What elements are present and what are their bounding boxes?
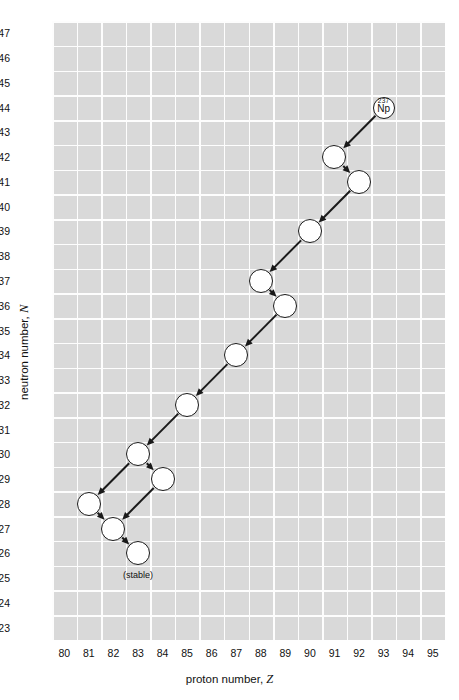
nuclide-node — [273, 294, 297, 318]
x-axis-title-symbol: Z — [266, 672, 273, 686]
nuclide-node — [77, 492, 101, 516]
y-tick-label: 129 — [0, 474, 10, 485]
y-tick-label: 131 — [0, 425, 10, 436]
plot-area: 237Np(stable) — [52, 21, 445, 640]
y-tick-label: 125 — [0, 573, 10, 584]
decay-arrow-line-alpha — [151, 414, 178, 442]
nuclide-label: 237Np — [373, 98, 395, 115]
y-tick-label: 127 — [0, 524, 10, 535]
decay-arrow-line-alpha — [126, 488, 153, 516]
element-symbol: Np — [373, 104, 395, 114]
y-tick-label: 139 — [0, 226, 10, 237]
y-tick-label: 146 — [0, 53, 10, 64]
decay-chain-chart: 237Np(stable) 14714614514414314214114013… — [0, 0, 459, 700]
y-tick-label: 135 — [0, 326, 10, 337]
y-tick-label: 142 — [0, 152, 10, 163]
decay-arrow-line-alpha — [323, 191, 350, 219]
nuclide-node — [347, 170, 371, 194]
y-tick-label: 144 — [0, 103, 10, 114]
nuclide-node — [151, 467, 175, 491]
y-tick-label: 134 — [0, 350, 10, 361]
y-tick-label: 143 — [0, 127, 10, 138]
y-tick-label: 132 — [0, 400, 10, 411]
stable-annotation: (stable) — [108, 570, 168, 580]
y-axis-title: neutron number, N — [17, 305, 32, 400]
y-tick-label: 128 — [0, 499, 10, 510]
y-tick-label: 145 — [0, 78, 10, 89]
y-tick-label: 138 — [0, 251, 10, 262]
x-axis-title-text: proton number, — [186, 673, 267, 685]
nuclide-node — [101, 517, 125, 541]
y-tick-label: 141 — [0, 177, 10, 188]
decay-arrow-line-alpha — [102, 463, 129, 491]
y-tick-label: 147 — [0, 28, 10, 39]
y-tick-label: 137 — [0, 276, 10, 287]
nuclide-node — [249, 269, 273, 293]
y-tick-label: 136 — [0, 301, 10, 312]
decay-arrow-line-alpha — [200, 364, 227, 392]
y-tick-label: 123 — [0, 623, 10, 634]
y-tick-label: 133 — [0, 375, 10, 386]
y-tick-label: 124 — [0, 598, 10, 609]
y-tick-label: 140 — [0, 202, 10, 213]
x-axis-title: proton number, Z — [0, 672, 459, 687]
decay-arrow-line-alpha — [274, 240, 301, 268]
decay-arrow-line-alpha — [249, 315, 276, 343]
y-axis-title-text: neutron number, — [18, 313, 30, 400]
y-axis-title-symbol: N — [17, 305, 31, 313]
decay-arrow-line-alpha — [347, 116, 375, 144]
x-tick-label: 95 — [416, 648, 450, 659]
y-tick-label: 126 — [0, 548, 10, 559]
nuclide-node — [175, 393, 199, 417]
y-tick-label: 130 — [0, 449, 10, 460]
